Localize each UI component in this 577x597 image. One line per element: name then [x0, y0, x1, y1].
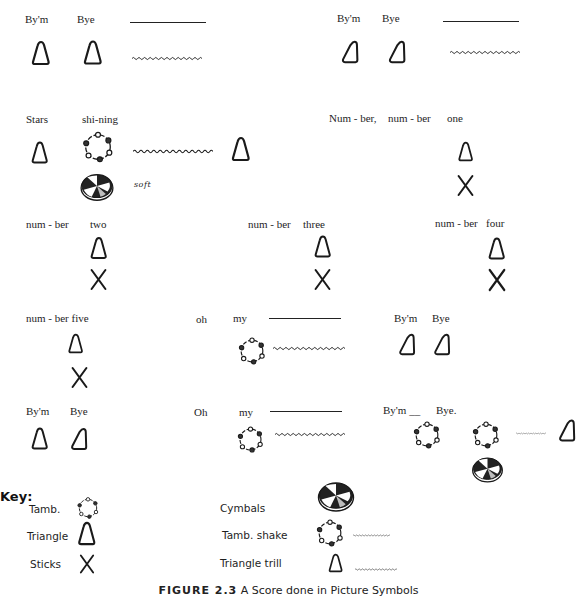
- triangle-icon: [70, 427, 88, 451]
- cymbals-icon: [316, 480, 356, 513]
- dynamic-marking: soft: [134, 181, 151, 189]
- triangle-icon: [340, 40, 360, 64]
- sticks-icon: [313, 266, 332, 293]
- lyric-word: my: [233, 313, 247, 324]
- cymbals-icon: [79, 172, 115, 202]
- trill-wavy-icon: [355, 567, 397, 572]
- triangle-icon: [433, 333, 451, 356]
- triangle-icon: [387, 40, 407, 64]
- lyric-word: num - ber: [435, 218, 478, 229]
- lyric-word: three: [303, 219, 325, 230]
- trill-wavy-icon: [273, 346, 345, 351]
- triangle-icon: [30, 40, 50, 66]
- lyric-word: num - ber: [26, 219, 69, 230]
- key-heading: Key:: [0, 490, 32, 503]
- lyric-word: my: [239, 407, 253, 418]
- lyric-word: Oh: [194, 407, 207, 418]
- hold-line: [130, 22, 206, 23]
- sticks-icon: [456, 172, 475, 199]
- lyric-word: By'm: [337, 13, 360, 24]
- sticks-icon: [89, 266, 108, 293]
- key-label: Tamb.: [29, 504, 60, 515]
- lyric-word: Bye: [432, 313, 450, 324]
- triangle-icon: [558, 417, 576, 444]
- lyric-word: one: [447, 113, 463, 124]
- trill-wavy-icon: [516, 431, 546, 436]
- triangle-icon: [30, 425, 48, 452]
- sticks-icon: [77, 554, 97, 574]
- tambourine-icon: [76, 496, 100, 520]
- trill-wavy-icon: [133, 149, 213, 154]
- triangle-icon: [487, 236, 505, 261]
- lyric-word: num - ber: [248, 219, 291, 230]
- lyric-word: num - ber five: [26, 313, 89, 324]
- trill-wavy-icon: [450, 50, 520, 55]
- triangle-icon: [89, 236, 107, 260]
- lyric-word: By'm __: [383, 405, 420, 416]
- lyric-word: num - ber: [388, 113, 431, 124]
- hold-line: [270, 411, 342, 412]
- hold-line: [443, 21, 519, 22]
- sticks-icon: [70, 364, 89, 391]
- sticks-icon: [487, 266, 507, 294]
- lyric-word: By'm: [26, 406, 49, 417]
- key-label: Tamb. shake: [222, 530, 287, 541]
- tambourine-icon: [236, 425, 265, 454]
- key-label: Triangle trill: [220, 558, 282, 569]
- figure-number: FIGURE 2.3: [158, 584, 237, 597]
- lyric-word: By'm: [25, 14, 48, 25]
- triangle-icon: [324, 553, 346, 573]
- lyric-word: By'm: [394, 313, 417, 324]
- lyric-word: Stars: [26, 114, 48, 125]
- lyric-word: oh: [196, 314, 207, 325]
- hold-line: [269, 318, 341, 319]
- tambourine-icon: [315, 518, 345, 548]
- figure-caption: FIGURE 2.3 A Score done in Picture Symbo…: [0, 585, 577, 596]
- lyric-word: Bye.: [436, 405, 456, 416]
- triangle-icon: [65, 333, 85, 354]
- lyric-word: Num - ber,: [329, 113, 377, 124]
- trill-wavy-icon: [132, 56, 202, 61]
- tambourine-icon: [81, 130, 115, 164]
- cymbals-icon: [471, 455, 504, 484]
- figure-title: A Score done in Picture Symbols: [241, 584, 419, 597]
- tambourine-icon: [412, 420, 442, 450]
- triangle-icon: [30, 140, 48, 165]
- key-label: Cymbals: [220, 503, 265, 514]
- lyric-word: Bye: [382, 13, 400, 24]
- tambourine-icon: [471, 420, 501, 450]
- lyric-word: Bye: [77, 14, 95, 25]
- trill-wavy-icon: [275, 432, 345, 437]
- triangle-icon: [456, 141, 474, 162]
- triangle-icon: [82, 39, 102, 66]
- triangle-icon: [313, 233, 331, 260]
- lyric-word: Bye: [70, 406, 88, 417]
- trill-wavy-icon: [353, 533, 390, 538]
- triangle-icon: [230, 136, 250, 162]
- lyric-word: shi-ning: [82, 114, 118, 125]
- triangle-icon: [76, 521, 96, 546]
- tambourine-icon: [237, 336, 267, 366]
- triangle-icon: [398, 333, 416, 356]
- lyric-word: two: [90, 219, 107, 230]
- key-label: Triangle: [27, 531, 68, 542]
- lyric-word: four: [486, 218, 504, 229]
- key-label: Sticks: [30, 559, 61, 570]
